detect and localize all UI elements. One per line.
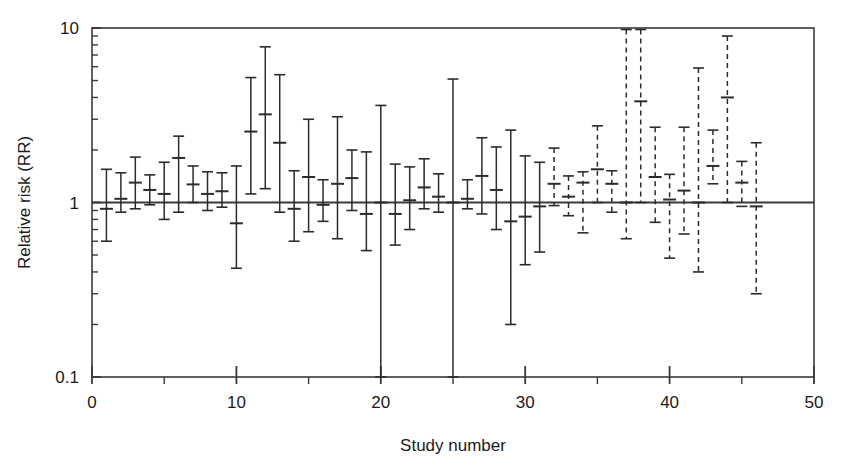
error-bar [172,136,185,212]
error-bar [461,180,474,209]
y-axis-label: Relative risk (RR) [15,136,34,269]
error-bar [591,126,604,203]
error-bar [345,150,358,211]
error-bar [288,171,301,241]
axis-text-labels: 0.111001020304050Study numberRelative ri… [15,19,823,455]
error-bar [706,130,719,184]
error-bar [389,164,402,245]
error-bar [187,166,200,203]
error-bar [663,174,676,258]
error-bar [605,171,618,212]
error-bar [562,176,575,216]
error-bar [259,47,272,189]
x-tick-label: 0 [87,393,96,412]
x-tick-label: 40 [660,393,679,412]
x-tick-label: 50 [805,393,824,412]
error-bar [634,30,647,203]
x-axis-label: Study number [400,436,506,455]
error-bar [114,173,127,212]
x-tick-label: 20 [371,393,390,412]
error-bar [490,147,503,230]
y-tick-label: 0.1 [55,368,79,387]
error-bar [735,161,748,206]
relative-risk-forest-plot: 0.111001020304050Study numberRelative ri… [0,0,847,476]
error-bar [100,169,113,241]
error-bar [432,174,445,212]
error-bar [317,180,330,222]
y-tick-label: 1 [70,194,79,213]
error-bar [403,167,416,230]
error-bar [360,152,373,251]
error-bar [678,127,691,234]
error-bar [158,162,171,219]
error-bar [649,127,662,222]
y-tick-label: 10 [60,19,79,38]
error-bar [143,175,156,205]
error-bar [620,30,633,239]
error-bar [692,68,705,272]
error-bar [331,117,344,239]
error-bar [519,156,532,265]
error-bar [447,79,460,377]
error-bar [230,166,243,268]
x-tick-label: 10 [227,393,246,412]
error-bar [533,162,546,252]
chart-figure: 0.111001020304050Study numberRelative ri… [0,0,847,476]
error-bar [721,36,734,203]
error-bar [201,172,214,211]
error-bar [418,159,431,209]
error-bar [374,105,387,377]
error-bar [750,143,763,294]
error-bar [548,148,561,205]
error-bar [273,75,286,212]
error-bar [302,119,315,231]
error-bar [244,78,257,194]
error-bar [129,157,142,209]
error-bar [504,130,517,324]
x-tick-label: 30 [516,393,535,412]
